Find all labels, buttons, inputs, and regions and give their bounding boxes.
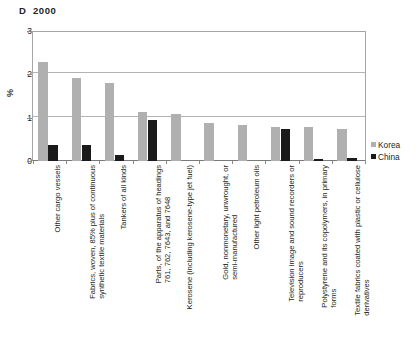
x-axis-labels: Other cargo vesselsFabrics, woven, 85% p… (33, 165, 365, 350)
x-tick-mark (199, 161, 200, 164)
x-axis-label-line: derivatives (363, 165, 372, 316)
bar-group (199, 31, 232, 161)
bar-china (148, 120, 158, 161)
x-axis-label-line: reproducers (296, 165, 305, 302)
x-axis-label: Television image and sound recorders orr… (287, 165, 306, 302)
x-tick-mark (99, 161, 100, 164)
x-axis-label-line: forms (330, 165, 339, 308)
bar-china (82, 145, 92, 161)
x-tick-mark (265, 161, 266, 164)
bar-group (133, 31, 166, 161)
x-tick-mark (232, 161, 233, 164)
bar-group (166, 31, 199, 161)
bar-korea (304, 127, 314, 161)
bar-group (232, 31, 265, 161)
bar-korea (38, 62, 48, 161)
x-axis-label-line: Fabrics, woven, 85% plus of continuous (88, 165, 97, 299)
x-axis-label: Parts, of the apparatus of headings761, … (154, 165, 173, 283)
x-axis-label-line: 761, 762, 7643, and 7648 (164, 165, 173, 283)
legend: KoreaChina (371, 139, 420, 163)
bars-layer (33, 31, 365, 161)
bar-group (332, 31, 365, 161)
x-axis-label: Kerosene (including kerosene-type jet fu… (185, 165, 194, 309)
bar-korea (271, 127, 281, 161)
x-axis-label-line: Gold, nonmonetary, unwrought, or (221, 165, 230, 280)
x-tick-mark (166, 161, 167, 164)
x-axis-label-line: semi-manufactured (230, 165, 239, 280)
bar-korea (238, 125, 248, 161)
bar-group (265, 31, 298, 161)
y-axis-ticks: 0123 (0, 0, 32, 352)
legend-item[interactable]: Korea (371, 139, 420, 150)
x-axis-label-line: synthetic textile materials (97, 165, 106, 299)
x-axis-label: Fabrics, woven, 85% plus of continuoussy… (88, 165, 107, 299)
x-axis-label: Tankers of all kinds (119, 165, 128, 230)
bar-korea (138, 112, 148, 161)
x-axis-label-line: Television image and sound recorders or (287, 165, 296, 302)
x-axis-label-line: Other light petroleum oils (252, 165, 261, 249)
bar-korea (72, 78, 82, 161)
x-axis-label-line: Textile fabrics coated with plastic or c… (353, 165, 362, 316)
bar-korea (105, 83, 115, 161)
legend-label: Korea (378, 140, 400, 150)
x-tick-mark (299, 161, 300, 164)
x-axis-label: Other light petroleum oils (252, 165, 261, 249)
bar-korea (204, 123, 214, 161)
legend-label: China (378, 152, 400, 162)
y-tick-mark (27, 161, 32, 162)
x-axis-label: Textile fabrics coated with plastic or c… (353, 165, 372, 316)
x-tick-mark (365, 161, 366, 164)
bar-china (281, 129, 291, 161)
bar-group (66, 31, 99, 161)
x-axis-label-line: Tankers of all kinds (119, 165, 128, 230)
bar-korea (171, 114, 181, 161)
x-tick-mark (332, 161, 333, 164)
legend-swatch-china (371, 154, 376, 159)
x-axis-label-line: Other cargo vessels (53, 165, 62, 233)
x-tick-mark (33, 161, 34, 164)
x-tick-mark (133, 161, 134, 164)
x-axis-label: Other cargo vessels (53, 165, 62, 233)
x-axis-label: Polystyrene and its copolymers, in prima… (320, 165, 339, 308)
legend-swatch-korea (371, 142, 376, 147)
bar-korea (337, 129, 347, 161)
x-tick-mark (66, 161, 67, 164)
bar-group (299, 31, 332, 161)
legend-item[interactable]: China (371, 151, 420, 162)
bar-group (99, 31, 132, 161)
bar-china (48, 145, 58, 161)
bar-group (33, 31, 66, 161)
x-axis-label-line: Kerosene (including kerosene-type jet fu… (185, 165, 194, 309)
x-axis-label: Gold, nonmonetary, unwrought, orsemi-man… (221, 165, 240, 280)
x-axis-label-line: Polystyrene and its copolymers, in prima… (320, 165, 329, 308)
x-axis-label-line: Parts, of the apparatus of headings (154, 165, 163, 283)
